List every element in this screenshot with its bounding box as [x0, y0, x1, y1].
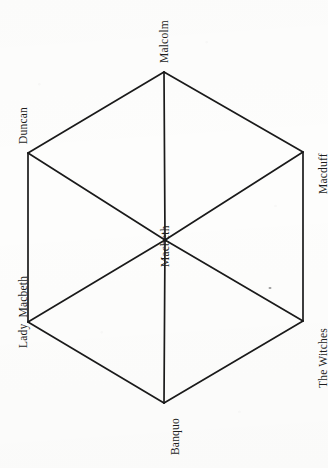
node-label-malcolm: Malcolm [159, 20, 171, 63]
node-label-macduff: Macduff [318, 153, 328, 194]
edge-malcolm-to-macduff [164, 72, 303, 152]
edge-duncan-to-malcolm [28, 72, 164, 153]
node-label-banquo: Banquo [170, 418, 182, 455]
edge-banquo-to-lady-macbeth [28, 322, 164, 403]
node-label-macbeth: Macbeth [160, 225, 172, 267]
node-label-lady-macbeth: Lady Macbeth [18, 276, 30, 348]
edge-the-witches-to-banquo [164, 321, 303, 403]
scan-speck [269, 287, 272, 289]
scan-artifacts [269, 287, 272, 289]
spoke-macbeth-to-duncan [28, 153, 165, 240]
diagram-canvas: MalcolmMacduffThe WitchesBanquoLady Macb… [0, 0, 328, 468]
node-label-duncan: Duncan [18, 107, 30, 144]
spoke-macbeth-to-macduff [165, 152, 303, 240]
spoke-macbeth-to-the-witches [165, 240, 303, 321]
node-label-the-witches: The Witches [318, 328, 328, 388]
spoke-macbeth-to-lady-macbeth [28, 240, 165, 322]
spoke-macbeth-to-malcolm [164, 72, 165, 240]
